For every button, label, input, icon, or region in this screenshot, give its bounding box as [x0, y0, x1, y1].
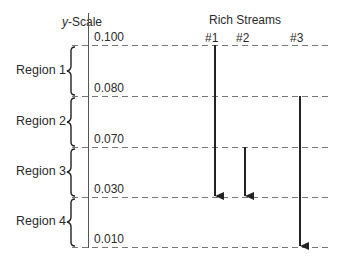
scale-dashed-lines [72, 46, 330, 248]
diagram-canvas [0, 0, 345, 263]
brace-icon-region-2 [67, 98, 75, 146]
brace-icon-region-1 [67, 47, 75, 95]
brace-icon-region-3 [67, 149, 75, 196]
brace-icon-region-4 [67, 199, 75, 246]
region-braces [67, 47, 75, 246]
